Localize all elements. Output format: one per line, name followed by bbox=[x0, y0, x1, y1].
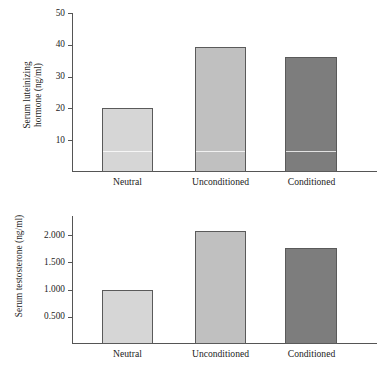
y-tick-label-1-000: 1.000 bbox=[44, 283, 65, 296]
y-tick-label-2-000: 2.000 bbox=[44, 229, 65, 242]
x-axis-label-conditioned: Conditioned bbox=[266, 347, 357, 360]
y-tick-mark-50 bbox=[68, 13, 73, 14]
x-axis-label-neutral: Neutral bbox=[82, 347, 173, 360]
y-tick-mark-20 bbox=[68, 108, 73, 109]
y-axis-title-luteinizing-hormone: Serum luteinizing hormone (ng/ml) bbox=[22, 20, 46, 170]
bar-unconditioned[interactable] bbox=[195, 231, 246, 344]
y-tick-label-40: 40 bbox=[56, 38, 65, 51]
y-tick-mark-2-000 bbox=[68, 235, 73, 236]
bar-conditioned[interactable] bbox=[285, 248, 337, 344]
y-tick-label-20: 20 bbox=[56, 102, 65, 115]
figure-two-panel-bar-charts: Serum luteinizing hormone (ng/ml) 10 20 … bbox=[0, 0, 390, 367]
bar-inner-line bbox=[286, 151, 336, 152]
bar-inner-line bbox=[196, 151, 245, 152]
plot-area-luteinizing-hormone: 10 20 30 40 50 bbox=[72, 13, 377, 172]
x-axis-label-neutral: Neutral bbox=[82, 175, 173, 188]
y-tick-mark-30 bbox=[68, 77, 73, 78]
y-tick-mark-40 bbox=[68, 45, 73, 46]
y-tick-mark-0-500 bbox=[68, 317, 73, 318]
plot-area-testosterone: 0.500 1.000 1.500 2.000 Neutral Uncondit… bbox=[72, 216, 377, 344]
bar-neutral[interactable] bbox=[102, 290, 153, 345]
y-tick-mark-1-500 bbox=[68, 262, 73, 263]
y-axis-title-line-1: Serum luteinizing bbox=[22, 20, 33, 170]
y-axis-title-line-2: hormone (ng/ml) bbox=[33, 20, 44, 170]
bar-inner-line bbox=[103, 151, 152, 152]
x-axis-label-conditioned: Conditioned bbox=[266, 175, 357, 188]
y-tick-label-10: 10 bbox=[56, 134, 65, 147]
bar-conditioned[interactable] bbox=[285, 57, 337, 172]
y-tick-label-0-500: 0.500 bbox=[44, 310, 65, 323]
y-axis-title-testosterone: Serum testosterone (ng/ml) bbox=[14, 196, 28, 336]
y-tick-label-30: 30 bbox=[56, 70, 65, 83]
chart-panel-testosterone: Serum testosterone (ng/ml) 0.500 1.000 1… bbox=[0, 195, 390, 367]
x-axis-label-unconditioned: Unconditioned bbox=[175, 347, 266, 360]
x-axis-label-unconditioned: Unconditioned bbox=[175, 175, 266, 188]
bar-neutral[interactable] bbox=[102, 108, 153, 172]
y-tick-mark-1-000 bbox=[68, 290, 73, 291]
y-tick-label-50: 50 bbox=[56, 7, 65, 20]
y-tick-label-1-500: 1.500 bbox=[44, 256, 65, 269]
bar-unconditioned[interactable] bbox=[195, 47, 246, 172]
y-axis-line bbox=[72, 13, 73, 172]
chart-panel-luteinizing-hormone: Serum luteinizing hormone (ng/ml) 10 20 … bbox=[0, 0, 390, 195]
y-tick-mark-10 bbox=[68, 140, 73, 141]
